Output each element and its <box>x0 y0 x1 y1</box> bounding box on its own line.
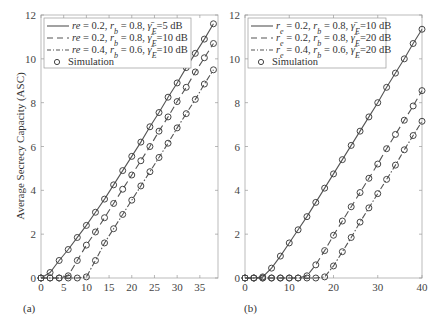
simulation-marker <box>147 169 153 175</box>
y-tick-label: 0 <box>235 272 241 284</box>
y-axis-label: Average Secrecy Capacity (ASC) <box>14 72 27 220</box>
x-tick-label: 35 <box>194 281 206 293</box>
y-tick-label: 12 <box>25 9 36 21</box>
simulation-marker <box>120 186 126 192</box>
simulation-marker <box>401 147 407 153</box>
simulation-marker <box>392 131 398 137</box>
x-tick-label: 25 <box>149 281 161 293</box>
y-tick-label: 4 <box>31 184 37 196</box>
panel-label-b: (b) <box>244 302 257 315</box>
y-tick-label: 6 <box>31 141 37 153</box>
y-tick-label: 6 <box>235 141 241 153</box>
simulation-marker <box>357 219 363 225</box>
x-tick-label: 15 <box>104 281 116 293</box>
x-tick-label: 10 <box>284 281 296 293</box>
simulation-marker <box>384 176 390 182</box>
series-dashdot <box>38 67 216 281</box>
legend-label: Simulation <box>68 56 115 67</box>
y-tick-label: 4 <box>235 184 241 196</box>
series-dashed <box>242 88 425 281</box>
simulation-marker <box>83 242 89 248</box>
simulation-marker <box>183 84 189 90</box>
legend: re = 0.2, rb = 0.8, γ̄E=5 dBre = 0.2, rb… <box>44 18 191 68</box>
legend-label: Simulation <box>272 56 319 67</box>
x-tick-label: 30 <box>172 281 184 293</box>
simulation-marker <box>375 161 381 167</box>
x-tick-label: 5 <box>61 281 67 293</box>
simulation-marker <box>138 158 144 164</box>
chart-panel-b: 010203040024681012re = 0.2, rb = 0.8, γ̄… <box>229 9 428 293</box>
y-tick-label: 12 <box>229 9 240 21</box>
simulation-marker <box>375 191 381 197</box>
simulation-marker <box>183 111 189 117</box>
y-tick-label: 2 <box>31 228 37 240</box>
y-tick-label: 0 <box>31 272 37 284</box>
x-tick-label: 0 <box>38 281 44 293</box>
simulation-marker <box>102 215 108 221</box>
legend: re = 0.2, rb = 0.8, γ̄E=10 dBre = 0.2, r… <box>248 18 391 68</box>
simulation-marker <box>201 55 207 61</box>
simulation-marker <box>165 140 171 146</box>
panel-label-a: (a) <box>23 302 36 315</box>
x-tick-label: 40 <box>417 281 429 293</box>
simulation-marker <box>410 103 416 109</box>
simulation-marker <box>201 81 207 87</box>
x-tick-label: 30 <box>372 281 384 293</box>
x-tick-label: 20 <box>126 281 138 293</box>
x-tick-label: 10 <box>81 281 93 293</box>
simulation-marker <box>357 190 363 196</box>
chart-panel-a: 05101520253035024681012re = 0.2, rb = 0.… <box>25 9 218 293</box>
y-tick-label: 8 <box>31 97 37 109</box>
simulation-marker <box>92 257 98 263</box>
y-tick-label: 2 <box>235 228 241 240</box>
y-tick-label: 8 <box>235 97 241 109</box>
y-tick-label: 10 <box>229 53 241 65</box>
simulation-marker <box>313 262 319 268</box>
figure-canvas: 05101520253035024681012re = 0.2, rb = 0.… <box>0 0 436 330</box>
series-dashed <box>38 40 216 281</box>
simulation-marker <box>339 249 345 255</box>
y-tick-label: 10 <box>25 53 37 65</box>
x-tick-label: 0 <box>242 281 248 293</box>
x-tick-label: 20 <box>328 281 340 293</box>
series-dashdot <box>242 118 425 281</box>
